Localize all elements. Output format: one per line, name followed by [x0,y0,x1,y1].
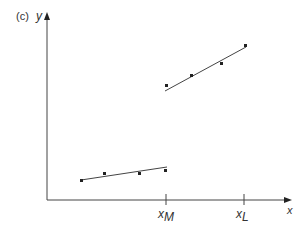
fit-line-upper [165,47,246,91]
x-axis-label: x [287,204,293,216]
tick-label-xM: xM [158,207,174,221]
y-axis-label: y [36,9,42,23]
panel-label: (c) [16,10,29,22]
x-axis-arrow-icon [284,197,292,203]
y-axis-arrow-icon [44,12,50,20]
plot-canvas [0,0,306,231]
fit-line-lower [81,167,167,180]
data-points [80,44,247,182]
tick-label-xL: xL [236,207,249,221]
